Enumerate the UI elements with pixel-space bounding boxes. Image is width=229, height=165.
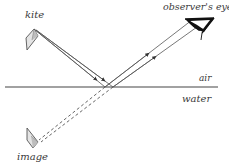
image-object — [27, 128, 38, 148]
air-label: air — [199, 74, 212, 83]
water-label: water — [182, 94, 211, 104]
reflection-diagram — [0, 0, 229, 165]
eye-icon — [185, 18, 214, 40]
kite-object — [26, 29, 38, 50]
virtual-rays — [39, 87, 113, 142]
image-label: image — [17, 152, 48, 162]
incident-rays — [34, 29, 113, 87]
kite-label: kite — [25, 10, 44, 20]
observer-eye-label: observer's eye — [163, 2, 229, 12]
reflected-rays — [105, 20, 197, 87]
